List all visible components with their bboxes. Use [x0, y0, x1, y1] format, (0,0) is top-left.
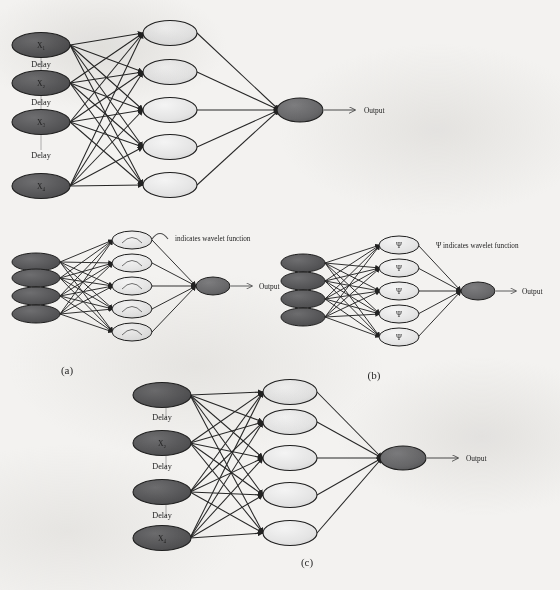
hidden-node-label: Ψ	[396, 333, 402, 342]
delay-label: Delay	[152, 462, 172, 471]
input-node-label: X₃	[37, 118, 45, 127]
wavelet-note: indicates wavelet function	[175, 235, 251, 243]
input-node-label: X₄	[37, 182, 45, 191]
hidden-node-label: Ψ	[396, 310, 402, 319]
input-node[interactable]	[12, 253, 60, 271]
output-node[interactable]	[461, 282, 495, 300]
delay-label: Delay	[31, 98, 51, 107]
panel-b-edges-input-hidden	[325, 245, 380, 337]
panel-label-a: (a)	[61, 364, 74, 377]
hidden-node[interactable]	[112, 323, 152, 341]
input-node-label: X₁	[37, 41, 45, 50]
wavelet-note: Ψ indicates wavelet function	[436, 242, 519, 250]
hidden-node[interactable]	[112, 254, 152, 272]
output-label: Output	[364, 106, 385, 115]
input-node[interactable]	[12, 269, 60, 287]
output-label: Output	[259, 282, 280, 291]
panel-a-edges-input-hidden	[70, 33, 143, 186]
input-node-label: X₂	[37, 79, 45, 88]
delay-label: Delay	[152, 413, 172, 422]
hidden-node[interactable]	[143, 135, 197, 160]
hidden-node-label: Ψ	[396, 264, 402, 273]
hidden-node[interactable]	[143, 60, 197, 85]
wavelet-legend-icon	[152, 234, 168, 240]
panel-c-edges-hidden-output	[317, 392, 382, 533]
output-node[interactable]	[380, 446, 426, 470]
input-node[interactable]	[133, 383, 191, 408]
panel-b-hidden-layer: Ψ Ψ Ψ Ψ Ψ	[379, 236, 419, 346]
panel-c: X₂ X₄ Delay Delay Delay Output (c)	[133, 380, 487, 570]
hidden-node[interactable]	[263, 410, 317, 435]
hidden-node[interactable]	[112, 277, 152, 295]
hidden-node-label: Ψ	[396, 287, 402, 296]
panel-b-edges-hidden-output	[418, 245, 461, 337]
panel-a-wavelet: Output indicates wavelet function (a)	[12, 231, 280, 377]
panel-b-input-layer	[281, 254, 325, 326]
output-label: Output	[466, 454, 487, 463]
output-node[interactable]	[277, 98, 323, 122]
input-node-label: X₄	[158, 534, 166, 543]
panel-c-hidden-layer	[263, 380, 317, 546]
output-label: Output	[522, 287, 543, 296]
hidden-node[interactable]	[263, 483, 317, 508]
panel-a-wavelet-input-layer	[12, 253, 60, 323]
hidden-node-label: Ψ	[396, 241, 402, 250]
neural-network-figure: X₁ X₂ X₃ X₄ Delay Delay Delay	[0, 0, 560, 590]
panel-a-wavelet-hidden-layer	[112, 231, 152, 341]
input-node[interactable]	[133, 480, 191, 505]
panel-c-edges-input-hidden	[190, 392, 263, 538]
delay-label: Delay	[152, 511, 172, 520]
figure-page: X₁ X₂ X₃ X₄ Delay Delay Delay	[0, 0, 560, 590]
panel-a-hidden-layer	[143, 21, 197, 198]
panel-a-wavelet-edges-input-hidden	[60, 240, 113, 332]
hidden-node[interactable]	[143, 98, 197, 123]
delay-label: Delay	[31, 60, 51, 69]
hidden-node[interactable]	[112, 300, 152, 318]
panel-label-b: (b)	[368, 369, 381, 382]
panel-a: X₁ X₂ X₃ X₄ Delay Delay Delay	[12, 21, 385, 199]
panel-a-input-layer: X₁ X₂ X₃ X₄	[12, 33, 70, 199]
input-node[interactable]	[281, 272, 325, 290]
input-node[interactable]	[281, 308, 325, 326]
input-node[interactable]	[12, 287, 60, 305]
hidden-node[interactable]	[263, 446, 317, 471]
panel-a-edges-hidden-output	[197, 33, 279, 185]
delay-label: Delay	[31, 151, 51, 160]
hidden-node[interactable]	[112, 231, 152, 249]
input-node[interactable]	[281, 254, 325, 272]
output-node[interactable]	[196, 277, 230, 295]
hidden-node[interactable]	[263, 380, 317, 405]
panel-label-c: (c)	[301, 556, 314, 569]
hidden-node[interactable]	[143, 173, 197, 198]
input-node[interactable]	[12, 305, 60, 323]
input-node-label: X₂	[158, 439, 166, 448]
input-node[interactable]	[281, 290, 325, 308]
panel-a-wavelet-edges-hidden-output	[152, 240, 196, 332]
panel-b: Ψ Ψ Ψ Ψ Ψ Output Ψ indicates wavelet fun…	[281, 236, 543, 382]
hidden-node[interactable]	[143, 21, 197, 46]
hidden-node[interactable]	[263, 521, 317, 546]
